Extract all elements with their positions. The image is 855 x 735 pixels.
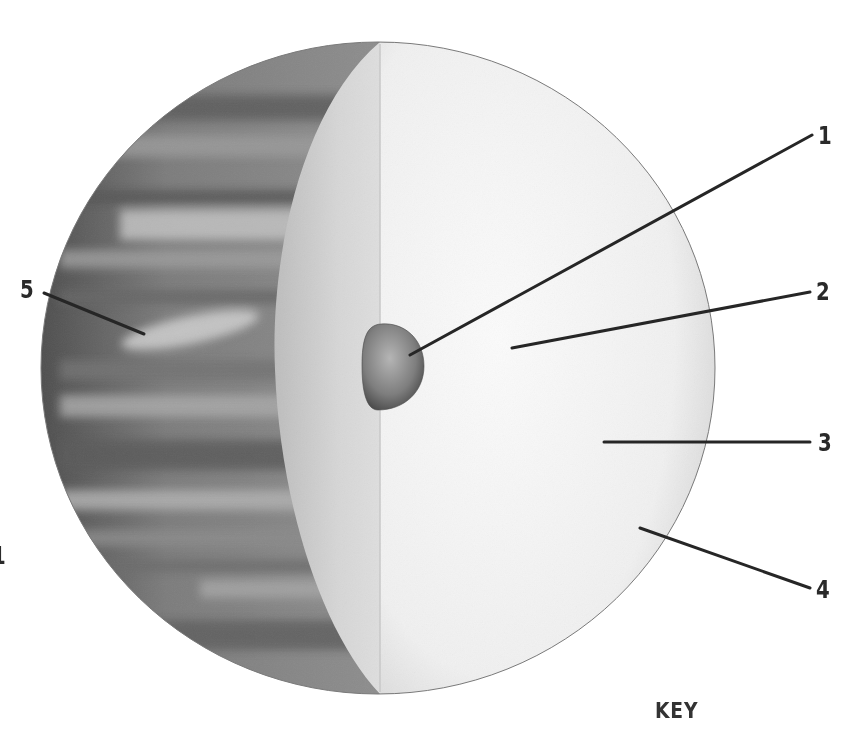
key-heading: KEY: [655, 698, 698, 723]
label-4: 4: [816, 578, 830, 602]
label-3: 3: [818, 431, 832, 455]
label-5: 5: [20, 278, 34, 302]
label-1: 1: [818, 124, 832, 148]
label-2: 2: [816, 280, 830, 304]
leader-line-4: [640, 528, 810, 588]
planet-cutaway-diagram: [0, 0, 855, 735]
edge-label-fragment: 1: [0, 544, 6, 568]
